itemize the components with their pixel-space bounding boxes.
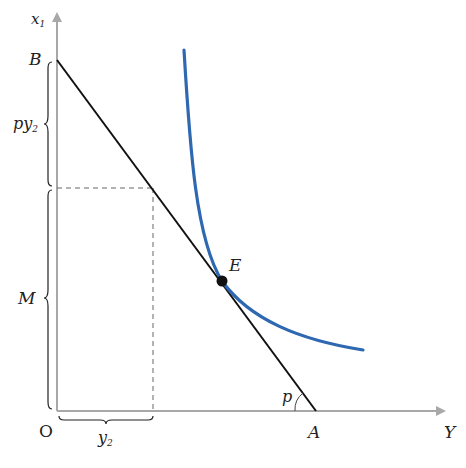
x-axis-label: Y xyxy=(444,422,457,442)
brace-m xyxy=(44,190,52,409)
tangency-point-e xyxy=(217,276,228,287)
brace-m-label: M xyxy=(17,288,36,308)
brace-py2 xyxy=(44,62,52,186)
brace-y2-label: y2 xyxy=(97,428,113,448)
y-axis-label: x1 xyxy=(31,10,45,29)
origin-label: O xyxy=(39,421,53,441)
indifference-curve xyxy=(184,50,363,350)
brace-py2-label: py2 xyxy=(13,114,38,134)
brace-y2 xyxy=(59,416,153,424)
budget-diagram: x1 B py2 M E p O y2 A Y xyxy=(0,0,466,468)
point-b-label: B xyxy=(28,49,42,69)
budget-line xyxy=(57,60,316,411)
angle-arc xyxy=(295,393,303,411)
angle-p-label: p xyxy=(282,387,292,406)
point-a-label: A xyxy=(306,422,320,442)
point-e-label: E xyxy=(228,255,242,275)
